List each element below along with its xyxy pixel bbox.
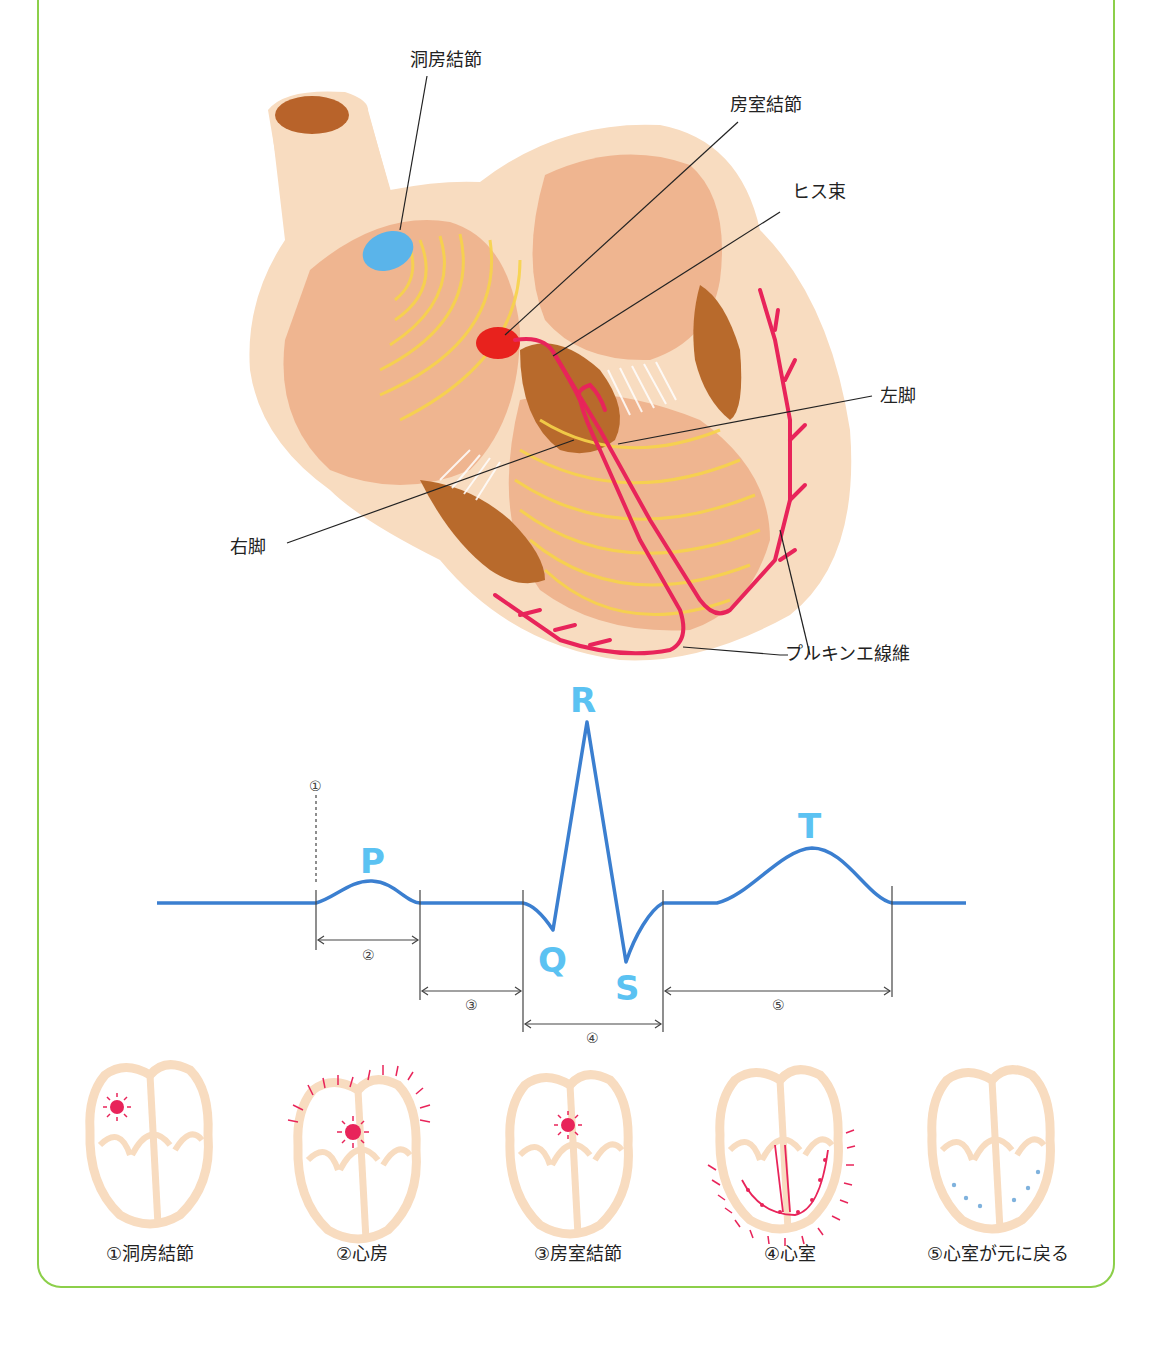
step-icon-4 bbox=[708, 1070, 855, 1246]
sa-node-spark bbox=[110, 1100, 124, 1114]
label-right-bundle: 右脚 bbox=[230, 536, 266, 557]
step-caption-3: ③房室結節 bbox=[534, 1243, 622, 1264]
ecg-label-q: Q bbox=[538, 940, 567, 980]
atria-spark bbox=[345, 1124, 361, 1140]
av-node-spark bbox=[561, 1118, 575, 1132]
marker-4: ④ bbox=[586, 1030, 599, 1046]
av-node bbox=[476, 327, 520, 359]
marker-3: ③ bbox=[465, 997, 478, 1013]
step-caption-4: ④心室 bbox=[764, 1243, 816, 1264]
vessel-opening bbox=[275, 96, 349, 134]
step-icon-1 bbox=[90, 1065, 209, 1225]
ecg-label-t: T bbox=[798, 806, 822, 846]
label-his-bundle: ヒス束 bbox=[792, 181, 846, 202]
ecg-trace bbox=[157, 722, 966, 962]
step-icon-3 bbox=[510, 1075, 629, 1235]
marker-5: ⑤ bbox=[772, 997, 785, 1013]
step-caption-1: ①洞房結節 bbox=[106, 1243, 194, 1264]
label-sa-node: 洞房結節 bbox=[410, 49, 482, 70]
ecg-label-r: R bbox=[570, 680, 596, 720]
ecg-line bbox=[157, 722, 966, 962]
heart-illustration bbox=[249, 91, 851, 660]
step-caption-5: ⑤心室が元に戻る bbox=[927, 1243, 1069, 1264]
label-left-bundle: 左脚 bbox=[880, 385, 916, 406]
heart-conduction-diagram: 洞房結節 房室結節 ヒス束 左脚 右脚 プルキンエ線維 P R Q S T ① … bbox=[0, 0, 1154, 1361]
label-purkinje: プルキンエ線維 bbox=[785, 643, 910, 664]
ecg-label-s: S bbox=[615, 968, 640, 1008]
marker-2: ② bbox=[362, 947, 375, 963]
step-icon-5 bbox=[932, 1070, 1051, 1230]
label-av-node: 房室結節 bbox=[730, 94, 802, 115]
ecg-label-p: P bbox=[360, 841, 385, 881]
marker-1: ① bbox=[309, 778, 322, 794]
step-caption-2: ②心房 bbox=[336, 1243, 388, 1264]
step-icon-2 bbox=[288, 1065, 430, 1240]
